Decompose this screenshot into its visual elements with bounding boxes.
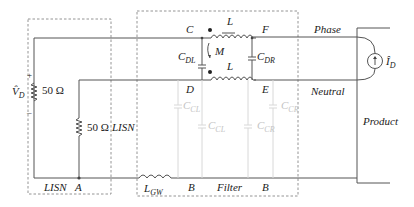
node-c-label: C (186, 24, 193, 35)
resistor-top (31, 83, 37, 101)
filter-label: Filter (217, 182, 242, 193)
inductor-top (208, 35, 256, 38)
node-b-right-label: B (262, 182, 269, 193)
node-b-left-label: B (188, 182, 195, 193)
node-f-label: F (262, 24, 269, 35)
capacitor-ccl-1 (174, 80, 182, 178)
lisn-label: LISN (112, 122, 135, 133)
phase-label: Phase (314, 24, 341, 35)
resistor-bottom-label: 50 Ω (87, 122, 109, 133)
neutral-label: Neutral (311, 86, 345, 97)
mutual-label: M (215, 46, 224, 57)
circuit-diagram (0, 0, 414, 207)
product-label: Product (363, 116, 398, 127)
inductor-top-label: L (227, 16, 233, 27)
node-e-label: E (262, 84, 269, 95)
ccl-2-label: CCL (208, 120, 225, 134)
inductor-bottom-label: L (227, 61, 233, 72)
ccr-1-label: CCR (257, 120, 275, 134)
node-a-label: A (75, 182, 82, 193)
capacitor-ccr-1 (244, 80, 252, 178)
inductor-lgw (139, 175, 171, 178)
resistor-bottom (76, 118, 82, 136)
resistor-top-label: 50 Ω (42, 85, 64, 96)
voltage-minus: – (27, 108, 32, 117)
capacitor-cdl (198, 65, 206, 68)
voltage-plus: + (27, 71, 32, 80)
capacitor-cdr (248, 57, 256, 60)
lisn-block-label: LISN (44, 182, 67, 193)
capacitor-ccl-2 (198, 80, 206, 178)
filter-box (137, 11, 298, 196)
ccl-1-label: CCL (183, 100, 200, 114)
current-source-label: ÎD (386, 56, 395, 70)
node-a-dot (77, 176, 80, 179)
polarity-dot-bottom (208, 70, 212, 74)
lgw-label: LGW (144, 183, 163, 197)
polarity-dot-top (208, 28, 212, 32)
cdr-label: CDR (257, 51, 275, 65)
cdl-label: CDL (178, 51, 196, 65)
inductor-bottom (208, 77, 256, 80)
voltage-source-label: V̂D (12, 86, 25, 100)
product-box (357, 28, 390, 183)
node-d-label: D (186, 84, 194, 95)
lisn-box (28, 19, 111, 194)
ccr-2-label: CCR (281, 100, 299, 114)
